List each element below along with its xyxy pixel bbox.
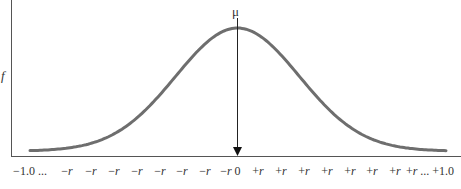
- x-tick-label: +r ... +1.0: [406, 164, 454, 179]
- x-tick-label: −r: [176, 164, 187, 179]
- x-tick-label: −r: [61, 164, 72, 179]
- y-axis-label: f: [1, 68, 5, 84]
- x-tick-label: +r: [389, 164, 400, 179]
- x-tick-label: +r: [298, 164, 309, 179]
- x-tick-label: +r: [252, 164, 263, 179]
- mean-label: μ: [232, 4, 239, 20]
- x-tick-label: +r: [321, 164, 332, 179]
- arrow-head-icon: [233, 147, 242, 156]
- x-tick-label: −r: [131, 164, 142, 179]
- bell-curve-chart: [0, 0, 461, 189]
- x-tick-label: −r: [154, 164, 165, 179]
- x-tick-label: −1.0 ...: [13, 164, 47, 179]
- x-tick-label: −r: [108, 164, 119, 179]
- x-tick-label: −r: [220, 164, 231, 179]
- x-tick-label: 0: [235, 164, 241, 179]
- x-tick-label: +r: [275, 164, 286, 179]
- x-tick-label: −r: [199, 164, 210, 179]
- x-tick-label: +r: [366, 164, 377, 179]
- x-tick-label: −r: [85, 164, 96, 179]
- x-tick-label: +r: [344, 164, 355, 179]
